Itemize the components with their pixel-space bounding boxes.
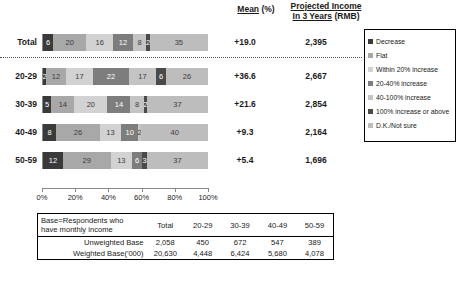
bar-segment: 12 xyxy=(43,152,63,169)
axis-tick-label: 100% xyxy=(194,193,222,202)
row-label-total: Total xyxy=(0,37,42,47)
bar-container: 51420148237 xyxy=(42,96,208,113)
mean-value: +5.4 xyxy=(216,155,274,165)
table-caption: Base=Respondents whohave monthly income xyxy=(38,214,147,237)
income-header-line2: In 3 Years xyxy=(293,11,333,21)
table-cell: 5,680 xyxy=(259,248,296,260)
bar-segment: 6 xyxy=(43,34,53,51)
bar-segment: 5 xyxy=(43,96,51,113)
legend-swatch-icon xyxy=(368,109,373,114)
legend-item[interactable]: Flat xyxy=(368,48,452,62)
table-column-header: Total xyxy=(147,214,184,237)
x-axis-ticks xyxy=(42,188,209,192)
bar-segment: 8 xyxy=(130,96,143,113)
table-row: Unweighted Base2,058450672547389 xyxy=(38,237,334,249)
bar-segment: 10 xyxy=(121,124,138,141)
row-label-40-49: 40-49 xyxy=(0,127,42,137)
mean-value: +36.6 xyxy=(216,71,274,81)
stacked-bar: 212172217626 xyxy=(43,68,208,85)
axis-tick xyxy=(108,188,109,192)
legend-item[interactable]: D.K./Not sure xyxy=(368,118,452,132)
projected-income-value: 2,164 xyxy=(280,127,352,137)
table-column-header: 50-59 xyxy=(296,214,333,237)
stacked-bar-chart: Total62016128235+19.02,39520-29212172217… xyxy=(0,26,362,196)
axis-tick xyxy=(75,188,76,192)
legend-label: Flat xyxy=(376,52,387,59)
table-cell: 4,078 xyxy=(296,248,333,260)
axis-tick xyxy=(175,188,176,192)
table-cell: 20,630 xyxy=(147,248,184,260)
bar-segment: 13 xyxy=(111,152,132,169)
row-label-50-59: 50-59 xyxy=(0,155,42,165)
axis-tick-label: 40% xyxy=(94,193,122,202)
bar-segment: 22 xyxy=(93,68,129,85)
chart-row: 40-498261310240+9.32,164 xyxy=(0,118,362,146)
legend-label: 100% increase or above xyxy=(376,108,449,115)
income-header-line1: Projected Income xyxy=(291,1,362,11)
chart-page: Mean (%) Projected Income In 3 Years (RM… xyxy=(0,0,457,290)
legend-item[interactable]: 20-40% increase xyxy=(368,76,452,90)
table-cell: 2,058 xyxy=(147,237,184,249)
legend-swatch-icon xyxy=(368,81,373,86)
bar-segment: 20 xyxy=(53,34,86,51)
legend-item[interactable]: 100% increase or above xyxy=(368,104,452,118)
total-row-separator xyxy=(0,57,362,58)
bar-segment: 26 xyxy=(56,124,99,141)
axis-tick xyxy=(42,188,43,192)
column-header-projected-income: Projected Income In 3 Years (RMB) xyxy=(290,1,362,21)
legend-item[interactable]: 40-100% increase xyxy=(368,90,452,104)
legend-swatch-icon xyxy=(368,123,373,128)
stacked-bar: 62016128235 xyxy=(43,34,208,51)
stacked-bar: 8261310240 xyxy=(43,124,208,141)
bar-segment: 14 xyxy=(51,96,74,113)
projected-income-value: 1,696 xyxy=(280,155,352,165)
bar-segment: 35 xyxy=(150,34,208,51)
base-table: Base=Respondents whohave monthly incomeT… xyxy=(37,213,334,260)
bar-segment: 12 xyxy=(113,34,133,51)
legend-label: Decrease xyxy=(376,38,405,45)
bar-segment: 17 xyxy=(66,68,94,85)
bar-container: 212172217626 xyxy=(42,68,208,85)
axis-tick-label: 0% xyxy=(28,193,56,202)
axis-tick-label: 80% xyxy=(161,193,189,202)
axis-tick xyxy=(142,188,143,192)
bar-segment: 6 xyxy=(156,68,166,85)
table-cell: 547 xyxy=(259,237,296,249)
legend-swatch-icon xyxy=(368,67,373,72)
table-cell: 450 xyxy=(184,237,221,249)
bar-segment: 37 xyxy=(147,96,208,113)
table-column-header: 20-29 xyxy=(184,214,221,237)
axis-tick xyxy=(208,188,209,192)
bar-segment: 37 xyxy=(147,152,208,169)
bar-segment: 17 xyxy=(129,68,157,85)
table-header-row: Base=Respondents whohave monthly incomeT… xyxy=(38,214,334,237)
mean-value: +21.6 xyxy=(216,99,274,109)
bar-segment: 20 xyxy=(74,96,107,113)
stacked-bar: 51420148237 xyxy=(43,96,208,113)
mean-header-label: Mean xyxy=(237,4,259,14)
legend-item[interactable]: Decrease xyxy=(368,34,452,48)
projected-income-value: 2,854 xyxy=(280,99,352,109)
table-column-header: 40-49 xyxy=(259,214,296,237)
legend: DecreaseFlatWithin 20% increase20-40% in… xyxy=(364,29,456,142)
legend-item[interactable]: Within 20% increase xyxy=(368,62,452,76)
table-cell: 6,424 xyxy=(221,248,258,260)
bar-segment: 14 xyxy=(107,96,130,113)
column-header-mean: Mean (%) xyxy=(228,4,284,14)
chart-row: 50-591229136337+5.41,696 xyxy=(0,146,362,174)
row-label-30-39: 30-39 xyxy=(0,99,42,109)
mean-header-unit: (%) xyxy=(261,4,274,14)
axis-tick-label: 60% xyxy=(128,193,156,202)
projected-income-value: 2,667 xyxy=(280,71,352,81)
bar-segment: 26 xyxy=(166,68,208,85)
chart-row: 20-29212172217626+36.62,667 xyxy=(0,62,362,90)
table-row-label: Unweighted Base xyxy=(38,237,147,249)
row-label-20-29: 20-29 xyxy=(0,71,42,81)
legend-label: D.K./Not sure xyxy=(376,122,417,129)
mean-value: +9.3 xyxy=(216,127,274,137)
projected-income-value: 2,395 xyxy=(280,37,352,47)
bar-container: 8261310240 xyxy=(42,124,208,141)
axis-tick-label: 20% xyxy=(61,193,89,202)
bar-container: 1229136337 xyxy=(42,152,208,169)
income-header-unit: (RMB) xyxy=(334,11,359,21)
